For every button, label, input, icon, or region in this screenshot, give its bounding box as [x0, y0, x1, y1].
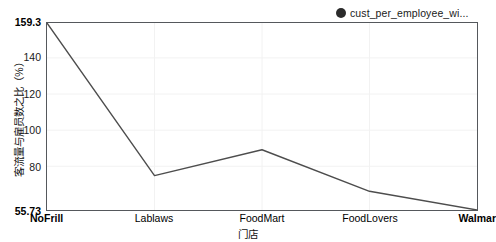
- x-tick-label: FoodMart: [240, 212, 285, 225]
- x-tick-label: FoodLovers: [342, 212, 397, 225]
- x-tick-label: Walmar: [458, 212, 496, 225]
- legend-series-label: cust_per_employee_wi...: [350, 7, 468, 19]
- x-tick-label: NoFrill: [30, 212, 63, 225]
- y-tick-label: 159.3: [15, 17, 41, 28]
- y-tick-label: 140: [23, 52, 41, 63]
- y-tick-label: 80: [29, 162, 41, 173]
- chart-legend[interactable]: cust_per_employee_wi...: [336, 5, 468, 21]
- x-tick-label: Lablaws: [135, 212, 174, 225]
- plot-area: [46, 22, 478, 211]
- y-tick-label: 120: [23, 89, 41, 100]
- y-axis-ticks: 159.3 140 120 100 80 55.73: [0, 0, 44, 242]
- vertical-gridlines: [155, 23, 370, 210]
- plot-svg: [47, 23, 477, 210]
- x-axis-title: 门店: [0, 226, 495, 241]
- legend-marker-icon: [336, 8, 346, 18]
- y-tick-label: 100: [23, 125, 41, 136]
